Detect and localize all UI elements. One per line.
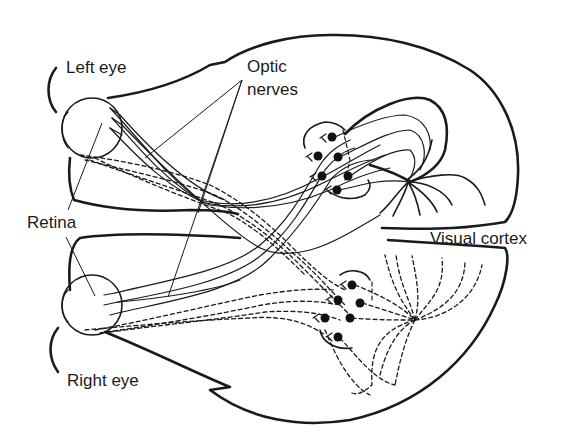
left-eye-bracket (49, 68, 57, 112)
label-visual-cortex: Visual cortex (430, 229, 528, 248)
label-optic: Optic (247, 57, 287, 76)
label-retina: Retina (27, 213, 77, 232)
visual-pathway-diagram: Left eye Optic nerves Retina Visual cort… (0, 0, 574, 442)
visual-cortex-lower (350, 255, 482, 394)
optic-nerves-solid-right (115, 140, 375, 312)
brain-outline-upper (69, 35, 518, 229)
label-right-eye: Right eye (67, 371, 139, 390)
lateral-geniculate-nucleus-lower (313, 271, 372, 348)
label-left-eye: Left eye (66, 58, 127, 77)
right-eye[interactable] (62, 275, 122, 335)
label-nerves: nerves (247, 80, 298, 99)
visual-cortex-upper (345, 98, 485, 216)
right-eye-bracket (51, 328, 59, 372)
